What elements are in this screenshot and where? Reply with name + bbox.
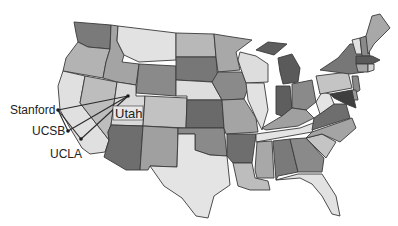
state-arizona xyxy=(104,125,143,170)
state-mississippi xyxy=(255,141,274,178)
node-stanford xyxy=(56,108,60,112)
state-new-mexico xyxy=(140,126,178,170)
node-ucsb xyxy=(66,129,70,133)
state-massachusetts xyxy=(356,56,380,64)
state-colorado xyxy=(143,96,187,128)
state-south-dakota xyxy=(176,57,218,82)
state-ohio xyxy=(292,80,316,110)
node-utah xyxy=(126,94,130,98)
label-stanford: Stanford xyxy=(10,103,55,117)
label-ucsb: UCSB xyxy=(32,124,65,138)
state-rhode-island xyxy=(368,64,374,72)
label-utah: Utah xyxy=(115,106,142,121)
node-ucla xyxy=(79,137,83,141)
label-ucla: UCLA xyxy=(50,147,82,161)
states xyxy=(58,14,390,218)
state-wyoming xyxy=(136,64,176,96)
state-michigan-upper xyxy=(256,42,287,55)
state-florida xyxy=(276,174,340,216)
state-connecticut xyxy=(356,64,368,72)
us-map: Stanford UCSB UCLA Utah xyxy=(0,0,398,226)
state-maine xyxy=(366,14,390,54)
state-north-dakota xyxy=(176,33,216,57)
state-montana xyxy=(117,26,176,62)
state-kansas xyxy=(186,100,224,128)
state-michigan-lower xyxy=(278,54,300,84)
state-arkansas xyxy=(227,134,256,163)
